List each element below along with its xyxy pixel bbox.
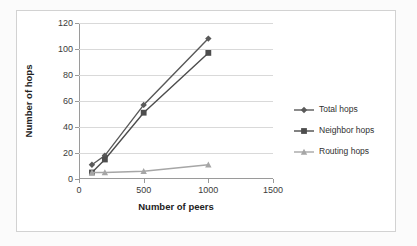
x-tick-mark bbox=[208, 179, 209, 183]
series-line bbox=[92, 39, 208, 165]
legend-item-label: Total hops bbox=[319, 105, 358, 114]
y-tick-label: 0 bbox=[68, 175, 73, 184]
y-tick-label: 120 bbox=[58, 19, 73, 28]
legend-item[interactable]: Neighbor hops bbox=[293, 120, 397, 141]
chart-legend: Total hopsNeighbor hopsRouting hops bbox=[293, 99, 397, 162]
chart-card: Number of hops 020406080100120 050010001… bbox=[16, 10, 396, 232]
data-point-marker bbox=[301, 128, 307, 134]
legend-marker-triangle-icon bbox=[293, 146, 315, 158]
x-tick-mark bbox=[144, 179, 145, 183]
legend-item-label: Routing hops bbox=[319, 147, 369, 156]
y-tick-label: 100 bbox=[58, 45, 73, 54]
y-tick-label: 60 bbox=[63, 97, 73, 106]
y-axis-title: Number of hops bbox=[23, 23, 37, 179]
data-point-marker bbox=[102, 157, 108, 163]
x-tick-label: 1500 bbox=[263, 186, 283, 195]
x-axis-title: Number of peers bbox=[79, 201, 273, 212]
plot-area-wrapper: 020406080100120 050010001500 bbox=[79, 23, 273, 179]
legend-item[interactable]: Routing hops bbox=[293, 141, 397, 162]
y-tick-label: 80 bbox=[63, 71, 73, 80]
x-tick-label: 1000 bbox=[198, 186, 218, 195]
legend-marker-square-icon bbox=[293, 125, 315, 137]
legend-item[interactable]: Total hops bbox=[293, 99, 397, 120]
x-tick-label: 500 bbox=[136, 186, 151, 195]
x-tick-mark bbox=[273, 179, 274, 183]
data-point-marker bbox=[301, 106, 307, 112]
screenshot-root: Number of hops 020406080100120 050010001… bbox=[0, 0, 417, 246]
x-tick-mark bbox=[79, 179, 80, 183]
y-tick-label: 40 bbox=[63, 123, 73, 132]
data-point-marker bbox=[205, 50, 211, 56]
legend-item-label: Neighbor hops bbox=[319, 126, 374, 135]
series-layer bbox=[79, 23, 273, 179]
series-line bbox=[92, 165, 208, 173]
legend-marker-diamond-icon bbox=[293, 104, 315, 116]
data-point-marker bbox=[141, 110, 147, 116]
series-line bbox=[92, 53, 208, 173]
x-tick-label: 0 bbox=[76, 186, 81, 195]
y-tick-label: 20 bbox=[63, 149, 73, 158]
